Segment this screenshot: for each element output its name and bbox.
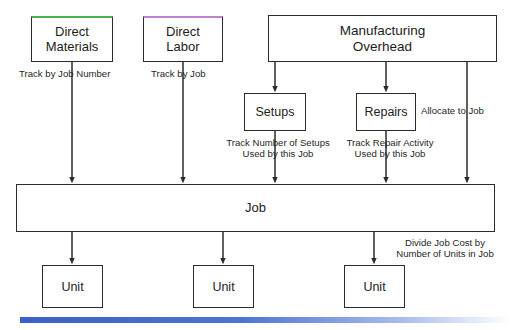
edge-label-track-number-of-setups: Track Number of Setups Used by this Job [219,137,337,160]
node-unit-3-label: Unit [363,280,385,294]
bottom-accent-bar [20,317,510,323]
edge-label-track-by-job-number: Track by Job Number [19,68,110,79]
node-manufacturing-overhead: Manufacturing Overhead [268,15,497,62]
node-setups: Setups [244,93,306,131]
edge-label-track-by-job: Track by Job [151,68,206,79]
node-job: Job [16,184,495,232]
node-unit-2: Unit [193,265,254,308]
node-manufacturing-overhead-label: Manufacturing Overhead [340,23,426,53]
node-direct-labor-label: Direct Labor [166,25,200,54]
node-direct-materials-label: Direct Materials [46,25,99,54]
edge-label-allocate-to-job: Allocate to Job [421,105,484,116]
node-job-label: Job [245,201,266,216]
edge-label-track-repair-activity: Track Repair Activity Used by this Job [338,137,442,160]
node-setups-label: Setups [256,105,295,119]
node-repairs: Repairs [356,93,416,131]
node-unit-1-label: Unit [61,280,83,294]
edge-label-divide-job-cost: Divide Job Cost by Number of Units in Jo… [383,237,507,260]
node-unit-3: Unit [344,265,405,308]
diagram-canvas: Direct Materials Direct Labor Manufactur… [0,0,510,330]
node-direct-materials: Direct Materials [31,16,113,62]
node-direct-labor: Direct Labor [143,16,223,62]
node-repairs-label: Repairs [364,105,407,119]
node-unit-2-label: Unit [212,280,234,294]
node-unit-1: Unit [42,265,103,308]
